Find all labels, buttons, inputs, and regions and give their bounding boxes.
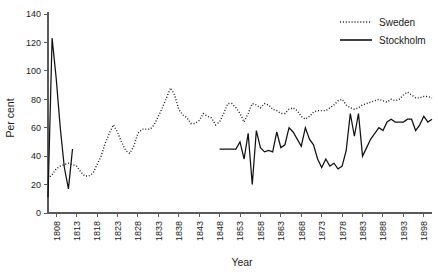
y-tick-label: 0 — [36, 208, 41, 218]
y-tick-label: 100 — [26, 66, 41, 76]
series-line-stockholm — [48, 38, 432, 197]
y-tick-label: 80 — [31, 95, 41, 105]
chart-legend: Sweden Stockholm — [340, 17, 426, 46]
x-tick-label: 1863 — [276, 221, 286, 241]
line-chart-plot: 020406080100120140 180818131818182318281… — [0, 0, 438, 272]
x-tick-label: 1883 — [358, 221, 368, 241]
x-tick-label: 1843 — [195, 221, 205, 241]
x-tick-label: 1868 — [297, 221, 307, 241]
legend-label-sweden: Sweden — [379, 17, 415, 28]
x-tick-label: 1878 — [338, 221, 348, 241]
x-tick-label: 1853 — [235, 221, 245, 241]
x-tick-label: 1888 — [378, 221, 388, 241]
x-tick-label: 1873 — [317, 221, 327, 241]
x-tick-label: 1893 — [399, 221, 409, 241]
y-tick-label: 20 — [31, 180, 41, 190]
x-axis-ticks: 1808181318181823182818331838184318481853… — [52, 213, 430, 241]
x-tick-label: 1808 — [52, 221, 62, 241]
x-tick-label: 1823 — [113, 221, 123, 241]
y-axis-title: Per cent — [4, 98, 16, 137]
x-axis-title: Year — [231, 256, 253, 268]
x-tick-label: 1848 — [215, 221, 225, 241]
y-tick-label: 60 — [31, 123, 41, 133]
y-tick-label: 40 — [31, 151, 41, 161]
x-tick-label: 1833 — [154, 221, 164, 241]
legend-label-stockholm: Stockholm — [379, 35, 426, 46]
y-tick-label: 120 — [26, 38, 41, 48]
x-tick-label: 1818 — [92, 221, 102, 241]
x-tick-label: 1828 — [133, 221, 143, 241]
y-tick-label: 140 — [26, 9, 41, 19]
x-tick-label: 1898 — [419, 221, 429, 241]
x-tick-label: 1813 — [72, 221, 82, 241]
x-tick-label: 1838 — [174, 221, 184, 241]
y-axis-ticks: 020406080100120140 — [26, 9, 48, 218]
chart-container: 020406080100120140 180818131818182318281… — [0, 0, 438, 272]
x-tick-label: 1858 — [256, 221, 266, 241]
